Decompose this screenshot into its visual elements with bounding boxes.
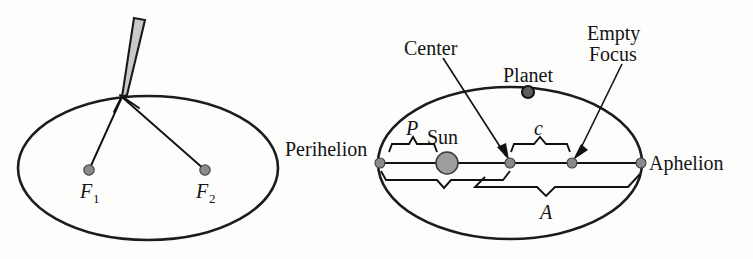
brace-p-label: P bbox=[405, 117, 418, 139]
sun-label: Sun bbox=[427, 126, 458, 148]
center-label: Center bbox=[404, 37, 458, 59]
focus-2-subscript: 2 bbox=[209, 191, 216, 206]
focus-1-label: F bbox=[79, 180, 93, 202]
focus-2-label: F bbox=[195, 180, 209, 202]
focus-point-1 bbox=[84, 165, 94, 175]
brace-c-label: c bbox=[534, 117, 543, 139]
planet-body bbox=[522, 86, 534, 98]
perihelion-label: Perihelion bbox=[285, 138, 367, 160]
left-panel-group: F 1 F 2 bbox=[18, 18, 278, 240]
brace-a-label: A bbox=[538, 201, 553, 223]
pencil-icon bbox=[122, 18, 145, 97]
planet-label: Planet bbox=[503, 64, 553, 86]
perihelion-point bbox=[375, 158, 385, 168]
brace-a bbox=[475, 174, 640, 196]
empty-focus-label-line2: Focus bbox=[589, 43, 637, 65]
figure-canvas: F 1 F 2 P c bbox=[0, 0, 753, 259]
brace-c bbox=[511, 137, 570, 152]
center-point bbox=[505, 158, 515, 168]
aphelion-label: Aphelion bbox=[649, 152, 723, 175]
focus-1-subscript: 1 bbox=[93, 191, 100, 206]
empty-focus-label-line1: Empty bbox=[587, 22, 640, 45]
string-segment-f2 bbox=[122, 97, 205, 170]
empty-focus-arrowhead-icon bbox=[573, 144, 588, 160]
empty-focus-leader-line bbox=[577, 64, 622, 156]
empty-focus-point bbox=[567, 158, 577, 168]
diagram-svg: F 1 F 2 P c bbox=[0, 0, 753, 259]
focus-point-2 bbox=[200, 165, 210, 175]
right-panel-group: P c A Perihelion Aphelion Center Planet bbox=[285, 22, 723, 239]
sun-body bbox=[436, 152, 458, 174]
aphelion-point bbox=[636, 158, 646, 168]
left-ellipse-outline bbox=[18, 96, 278, 240]
